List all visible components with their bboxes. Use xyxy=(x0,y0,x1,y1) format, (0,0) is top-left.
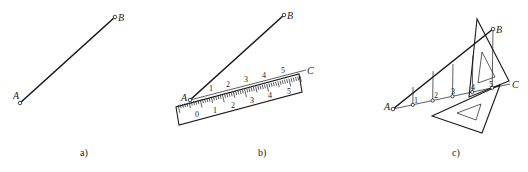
ruler-tick xyxy=(258,86,259,90)
ruler-tick xyxy=(287,79,288,83)
ruler-tick xyxy=(180,104,181,108)
label-b: B xyxy=(496,24,502,35)
label-b: B xyxy=(287,10,293,21)
caption-c: c) xyxy=(452,147,460,159)
ruler-tick xyxy=(262,85,263,89)
lower-set-square xyxy=(432,85,500,133)
div-label-1: 1 xyxy=(414,96,418,105)
scale-num-3: 3 xyxy=(250,96,254,105)
top-num-2: 2 xyxy=(226,80,230,89)
ruler-tick xyxy=(247,89,248,93)
segment-ab xyxy=(20,17,115,103)
panel-b: 1 2 3 4 5 0 1 2 3 4 5 A B C b) xyxy=(176,10,314,159)
scale-num-0: 0 xyxy=(195,110,199,119)
point-b xyxy=(113,15,117,19)
segment-ab xyxy=(393,29,493,109)
ruler-tick xyxy=(296,77,297,81)
div-label-3: 3 xyxy=(451,87,455,96)
top-num-3: 3 xyxy=(244,75,248,84)
ruler-tick xyxy=(253,87,254,91)
ruler-tick xyxy=(256,87,257,93)
ruler-tick xyxy=(200,100,202,108)
ruler-tick xyxy=(280,81,281,85)
label-a: A xyxy=(12,90,20,101)
parallel-line xyxy=(492,29,493,88)
point-a xyxy=(391,107,395,111)
ruler-tick xyxy=(291,78,292,82)
ruler-tick xyxy=(282,80,283,84)
point-a xyxy=(18,101,22,105)
ruler-tick xyxy=(225,94,226,98)
div-label-5: 5 xyxy=(489,80,493,89)
point-b xyxy=(491,27,495,31)
label-c: C xyxy=(512,79,519,90)
ruler-tick xyxy=(236,91,237,95)
ruler-tick xyxy=(249,88,250,92)
ruler-tick xyxy=(251,88,252,92)
geometry-figure: A B a) 1 2 3 4 5 0 1 2 3 4 5 A xyxy=(0,0,528,172)
ruler-tick xyxy=(242,90,243,94)
ruler-tick xyxy=(245,89,247,97)
point-a xyxy=(188,98,192,102)
label-b: B xyxy=(118,12,124,23)
ruler-tick xyxy=(227,93,228,97)
ruler-tick xyxy=(240,90,241,94)
ruler-tick xyxy=(220,95,221,99)
scale-num-2: 2 xyxy=(231,101,235,110)
scale-num-4: 4 xyxy=(268,91,272,100)
ruler-tick xyxy=(231,92,232,96)
point-b xyxy=(282,13,286,17)
ruler-tick xyxy=(293,78,294,82)
ruler-tick xyxy=(233,92,234,98)
ruler-tick xyxy=(260,85,261,89)
ruler-tick xyxy=(271,83,272,87)
scale-num-5: 5 xyxy=(287,87,291,96)
ruler-tick xyxy=(298,77,299,81)
ruler-tick xyxy=(276,82,277,86)
ruler-tick xyxy=(229,93,230,97)
panel-a: A B a) xyxy=(12,12,124,159)
top-num-4: 4 xyxy=(262,71,266,80)
label-a: A xyxy=(383,101,391,112)
div-label-2: 2 xyxy=(434,91,438,100)
ruler-tick xyxy=(273,82,274,86)
caption-b: b) xyxy=(258,147,266,159)
ruler-tick xyxy=(265,84,266,88)
ruler-tick xyxy=(238,91,239,95)
label-c: C xyxy=(307,65,314,76)
ruler-tick xyxy=(222,94,224,102)
panel-c: 1 2 3 4 5 A B C c) xyxy=(383,19,519,159)
top-num-5: 5 xyxy=(281,66,285,75)
ruler-tick xyxy=(211,97,212,103)
div-label-4: 4 xyxy=(471,83,475,92)
top-num-1: 1 xyxy=(209,84,213,93)
ruler-tick xyxy=(269,83,270,87)
lower-set-square-hole xyxy=(457,104,481,120)
ruler-tick xyxy=(289,79,291,87)
caption-a: a) xyxy=(80,147,88,159)
label-a: A xyxy=(180,92,188,103)
scale-num-1: 1 xyxy=(213,106,217,115)
ruler-tick xyxy=(278,81,279,87)
ruler-tick xyxy=(284,80,285,84)
